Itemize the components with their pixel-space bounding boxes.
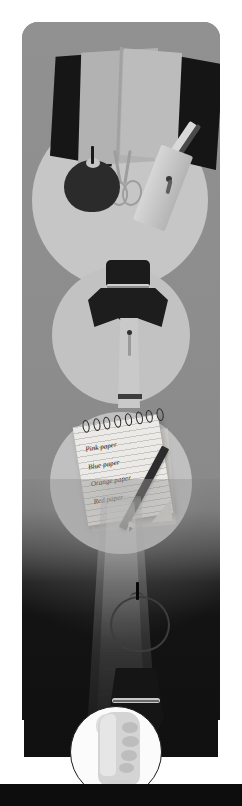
hand-knuckle [119, 763, 134, 773]
sleeve-cuff-shadow [113, 700, 159, 702]
hand-knuckle [122, 736, 139, 747]
shirt-button [127, 330, 132, 335]
collar-band-shadow [107, 286, 149, 288]
apple-stem [91, 146, 94, 164]
illustration-canvas: Pink paper Blue paper Orange paper Red p… [0, 0, 242, 806]
poster-card: Pink paper Blue paper Orange paper Red p… [22, 22, 220, 784]
bottom-black-strip [0, 784, 242, 806]
shirt-hem [118, 394, 142, 399]
hand-knuckle [121, 750, 137, 761]
apple-outline-icon [110, 596, 170, 652]
hand-highlight [100, 714, 116, 776]
apple-outline-stem [136, 582, 139, 600]
hand-knuckle [122, 722, 138, 733]
white-margin-left [0, 720, 24, 784]
white-margin-right [218, 720, 242, 784]
shirt-placket-slit [128, 334, 131, 356]
